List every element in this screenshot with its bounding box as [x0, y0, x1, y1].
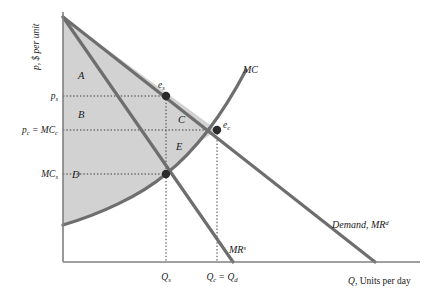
- economics-figure: p, $ per unit Q, Units per day ps pc = M…: [0, 0, 434, 300]
- point-mrs-mc-intersection: [162, 170, 170, 178]
- curve-label-mrs-text: MR: [228, 244, 243, 255]
- y-tick-pc: pc = MCc: [21, 125, 58, 136]
- y-tick-labels: ps pc = MCc MCs: [21, 91, 58, 180]
- y-tick-ps: ps: [50, 91, 59, 102]
- region-label-D: D: [71, 169, 80, 180]
- y-axis-title: p, $ per unit: [31, 23, 41, 71]
- x-tick-qs: Qs: [161, 272, 171, 283]
- chart-svg: p, $ per unit Q, Units per day ps pc = M…: [0, 0, 434, 300]
- curve-label-mc: MC: [242, 64, 258, 75]
- svg-text:Q, Units per day: Q, Units per day: [348, 276, 411, 286]
- region-label-E: E: [175, 141, 183, 152]
- point-es: [162, 92, 170, 100]
- curve-label-mc-text: MC: [242, 64, 258, 75]
- y-tick-mcs: MCs: [40, 169, 58, 180]
- region-label-B: B: [78, 109, 85, 120]
- x-tick-qc-tail-sub: d: [234, 276, 238, 283]
- svg-text:p, $ per unit: p, $ per unit: [31, 23, 41, 71]
- point-label-es-sub: s: [162, 84, 165, 91]
- point-ec: [213, 126, 221, 134]
- x-tick-qc-tail: = Q: [216, 272, 234, 282]
- x-tick-labels: Qs Qc = Qd: [161, 272, 238, 283]
- point-label-ec: ec: [223, 120, 230, 131]
- x-axis-title-rest: , Units per day: [355, 276, 411, 286]
- y-tick-mcs-sub: s: [55, 173, 58, 180]
- y-tick-mcs-main: MC: [40, 169, 56, 179]
- y-tick-pc-tail-sub: c: [55, 129, 58, 136]
- y-tick-pc-tail: = MC: [30, 125, 56, 135]
- point-label-es: es: [158, 80, 165, 91]
- region-label-C: C: [178, 114, 186, 125]
- curve-label-demand-text: Demand, MR: [331, 219, 385, 230]
- curve-label-demand: Demand, MRd: [331, 219, 389, 230]
- region-label-A: A: [77, 70, 85, 81]
- x-axis-title: Q, Units per day: [348, 276, 411, 286]
- y-axis-title-text: p, $ per unit: [31, 23, 41, 71]
- point-label-ec-sub: c: [227, 124, 230, 131]
- curve-label-mrs-sup: s: [243, 244, 246, 251]
- curve-label-demand-sup: d: [385, 219, 389, 226]
- x-tick-qs-sub: s: [168, 276, 171, 283]
- y-tick-ps-sub: s: [55, 95, 58, 102]
- curve-label-mrs: MRs: [228, 244, 246, 255]
- x-tick-qc: Qc = Qd: [206, 272, 238, 283]
- curve-labels: MC Demand, MRd MRs: [228, 64, 389, 255]
